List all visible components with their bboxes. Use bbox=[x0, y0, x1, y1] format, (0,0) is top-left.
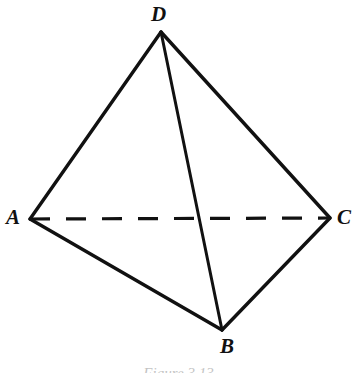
edge-A-C-dashed bbox=[30, 218, 330, 219]
tetrahedron-figure: D A C B Figure 3.13 bbox=[0, 0, 357, 373]
edge-B-C bbox=[222, 218, 330, 330]
vertex-label-b: B bbox=[220, 336, 234, 357]
figure-caption: Figure 3.13 bbox=[0, 366, 357, 373]
edge-D-A bbox=[30, 32, 161, 219]
edge-D-C bbox=[161, 32, 330, 218]
vertex-label-c: C bbox=[337, 207, 351, 228]
edge-A-B bbox=[30, 219, 222, 330]
tetrahedron-drawing bbox=[0, 0, 357, 373]
vertex-label-d: D bbox=[151, 4, 166, 25]
edge-D-B bbox=[161, 32, 222, 330]
vertex-label-a: A bbox=[6, 207, 20, 228]
